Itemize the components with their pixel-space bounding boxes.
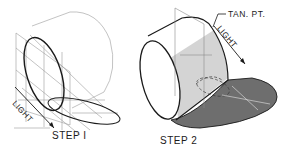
step2-label: STEP 2: [160, 135, 197, 146]
tangent-point-label: TAN. PT.: [228, 9, 265, 19]
shadow-construction-figure: [0, 0, 291, 157]
step1-shadow-ellipse: [46, 92, 123, 129]
step1-label: STEP I: [52, 130, 87, 141]
step2-drawing: [133, 8, 277, 128]
